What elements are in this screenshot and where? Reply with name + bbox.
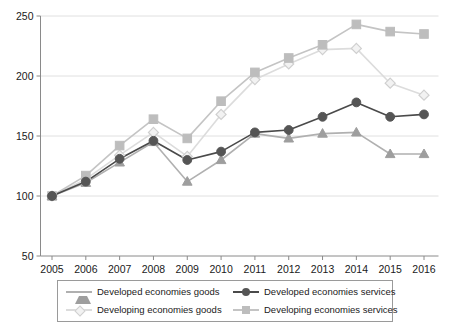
legend-item-developing-goods[interactable]: Developing economies goods — [58, 301, 225, 319]
data-point-square — [115, 141, 124, 150]
legend-label: Developing economies services — [264, 304, 398, 316]
chart-plot-area: 5010015020025020052006200720082009201020… — [0, 0, 449, 327]
data-point-circle — [183, 156, 192, 165]
data-point-square — [284, 54, 293, 63]
series-line — [52, 48, 424, 196]
legend-label: Developing economies goods — [97, 304, 222, 316]
y-tick-label: 100 — [16, 190, 34, 202]
legend-item-developed-goods[interactable]: Developed economies goods — [58, 283, 225, 301]
data-point-square — [217, 97, 226, 106]
series-line — [52, 102, 424, 196]
line-chart: 5010015020025020052006200720082009201020… — [0, 0, 449, 327]
data-point-circle — [352, 98, 361, 107]
data-point-square — [183, 134, 192, 143]
data-point-circle — [284, 126, 293, 135]
y-tick-label: 200 — [16, 70, 34, 82]
y-tick-label: 250 — [16, 10, 34, 22]
legend-swatch-diamond-icon — [66, 304, 92, 316]
data-point-square — [420, 30, 429, 39]
data-point-diamond — [419, 90, 429, 100]
data-point-circle — [48, 192, 57, 201]
legend-swatch-circle-icon — [233, 286, 259, 298]
x-tick-label: 2013 — [311, 263, 335, 275]
data-point-circle — [386, 112, 395, 121]
data-point-circle — [251, 128, 260, 137]
x-tick-label: 2005 — [40, 263, 64, 275]
legend-swatch-square-icon — [233, 304, 259, 316]
legend-swatch-triangle-icon — [66, 286, 92, 298]
x-tick-label: 2014 — [345, 263, 369, 275]
data-point-square — [352, 20, 361, 29]
legend-item-developing-services[interactable]: Developing economies services — [225, 301, 392, 319]
x-tick-label: 2008 — [142, 263, 166, 275]
x-tick-label: 2010 — [209, 263, 233, 275]
data-point-square — [149, 115, 158, 124]
data-point-square — [386, 27, 395, 36]
data-point-square — [251, 68, 260, 77]
x-tick-label: 2016 — [412, 263, 436, 275]
data-point-circle — [318, 112, 327, 121]
data-point-circle — [81, 177, 90, 186]
x-tick-label: 2009 — [176, 263, 200, 275]
data-point-circle — [217, 147, 226, 156]
data-point-circle — [420, 110, 429, 119]
x-tick-label: 2011 — [244, 263, 267, 275]
x-tick-label: 2006 — [74, 263, 98, 275]
x-tick-label: 2012 — [277, 263, 301, 275]
y-tick-label: 50 — [22, 250, 34, 262]
data-point-triangle — [352, 127, 362, 136]
data-point-circle — [149, 136, 158, 145]
data-point-circle — [115, 154, 124, 163]
legend-label: Developed economies goods — [97, 286, 220, 298]
x-tick-label: 2007 — [108, 263, 132, 275]
x-tick-label: 2015 — [379, 263, 403, 275]
legend-item-developed-services[interactable]: Developed economies services — [225, 283, 392, 301]
data-point-square — [318, 41, 327, 50]
chart-legend: Developed economies goods Developed econ… — [57, 280, 393, 322]
legend-label: Developed economies services — [264, 286, 395, 298]
y-tick-label: 150 — [16, 130, 34, 142]
